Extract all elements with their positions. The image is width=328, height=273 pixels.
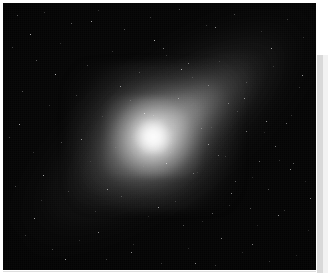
comet-photograph	[3, 3, 316, 270]
screenshot-viewport: Grayscale astronomical photograph of a c…	[0, 0, 328, 273]
comet-nucleus	[134, 120, 172, 152]
right-scan-band-outer	[323, 55, 328, 273]
bottom-scan-line	[3, 271, 316, 272]
